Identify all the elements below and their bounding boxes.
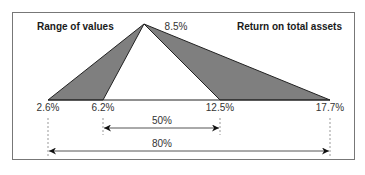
point-label-2-6: 2.6% [37, 102, 60, 113]
point-label-17-7: 17.7% [316, 102, 344, 113]
range-of-values-heading: Range of values [37, 21, 114, 32]
range-label-80: 80% [152, 138, 172, 149]
point-label-12-5: 12.5% [206, 102, 234, 113]
diagram-frame [13, 13, 355, 160]
range-diagram: Range of values Return on total assets 8… [0, 0, 365, 175]
point-label-6-2: 6.2% [92, 102, 115, 113]
apex-label: 8.5% [165, 21, 188, 32]
range-label-50: 50% [152, 115, 172, 126]
return-on-total-assets-heading: Return on total assets [237, 21, 342, 32]
